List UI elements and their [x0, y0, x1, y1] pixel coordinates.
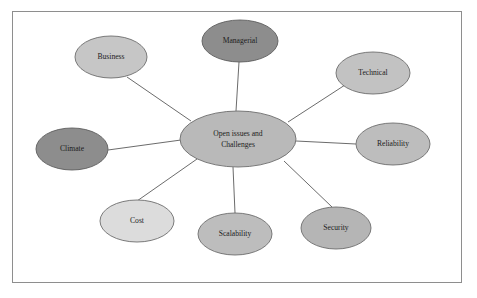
edge-center-climate: [108, 140, 181, 150]
node-reliability[interactable]: Reliability: [356, 123, 430, 165]
edge-center-cost: [137, 159, 197, 201]
node-business[interactable]: Business: [75, 36, 147, 78]
edge-center-technical: [288, 85, 345, 122]
node-ellipse-center[interactable]: [180, 111, 296, 167]
edge-center-reliability: [296, 141, 356, 144]
node-managerial[interactable]: Managerial: [202, 20, 278, 62]
edge-center-managerial: [236, 62, 239, 111]
edge-center-scalability: [233, 167, 235, 213]
node-cost[interactable]: Cost: [100, 200, 174, 242]
node-label-center-line1: Open issues and: [213, 129, 263, 138]
edge-center-business: [127, 77, 191, 121]
center-node-layer: Open issues andChallenges: [180, 111, 296, 167]
node-label-reliability: Reliability: [377, 139, 409, 148]
node-label-security: Security: [323, 223, 349, 232]
node-scalability[interactable]: Scalability: [198, 213, 272, 255]
node-label-climate: Climate: [60, 144, 85, 153]
node-technical[interactable]: Technical: [336, 52, 410, 94]
diagram-root: BusinessManagerialTechnicalReliabilityCl…: [0, 0, 477, 298]
concept-map-canvas: BusinessManagerialTechnicalReliabilityCl…: [0, 0, 477, 298]
node-label-scalability: Scalability: [219, 229, 252, 238]
node-label-managerial: Managerial: [223, 36, 258, 45]
node-climate[interactable]: Climate: [36, 128, 108, 170]
node-security[interactable]: Security: [301, 207, 371, 249]
node-label-technical: Technical: [358, 68, 387, 77]
node-label-business: Business: [97, 52, 124, 61]
edge-center-security: [284, 161, 332, 207]
node-label-cost: Cost: [130, 216, 145, 225]
node-label-center-line2: Challenges: [221, 140, 255, 149]
node-center[interactable]: Open issues andChallenges: [180, 111, 296, 167]
